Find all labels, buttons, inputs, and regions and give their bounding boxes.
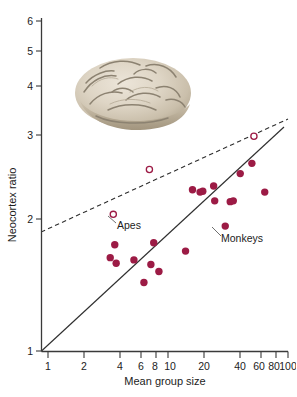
y-tick-label-6: 6 xyxy=(27,15,33,27)
data-point xyxy=(110,211,116,217)
scatter-plot: 6 5 4 3 2 1 Neocortex ratio 1 2 4 6 xyxy=(0,0,296,397)
x-tick-label-80: 80 xyxy=(268,360,280,372)
monkeys-label: Monkeys xyxy=(221,232,263,244)
data-point xyxy=(107,254,114,261)
data-point xyxy=(222,222,229,229)
y-axis: 6 5 4 3 2 1 Neocortex ratio xyxy=(6,15,42,357)
x-tick-label-10: 10 xyxy=(164,360,176,372)
x-axis-title: Mean group size xyxy=(124,375,205,387)
y-tick-label-3: 3 xyxy=(27,129,33,141)
ape-data-points xyxy=(110,133,257,217)
y-tick-label-2: 2 xyxy=(27,213,33,225)
annotation-apes: Apes xyxy=(108,216,141,231)
x-tick-label-4: 4 xyxy=(117,360,123,372)
apes-label: Apes xyxy=(117,219,141,231)
data-point xyxy=(237,170,244,177)
brain-illustration xyxy=(75,58,191,130)
y-axis-title: Neocortex ratio xyxy=(6,168,18,243)
x-axis: 1 2 4 6 8 10 20 40 60 80 100 Mean group … xyxy=(42,352,297,388)
x-tick-label-2: 2 xyxy=(81,360,87,372)
x-tick-label-8: 8 xyxy=(152,360,158,372)
figure-container: 6 5 4 3 2 1 Neocortex ratio 1 2 4 6 xyxy=(0,0,296,397)
y-tick-label-1: 1 xyxy=(27,345,33,357)
annotation-monkeys: Monkeys xyxy=(212,227,263,244)
data-point xyxy=(147,261,154,268)
data-point xyxy=(248,160,255,167)
data-point xyxy=(199,188,206,195)
x-tick-label-100: 100 xyxy=(279,360,296,372)
data-point xyxy=(150,239,157,246)
data-point xyxy=(146,166,152,172)
data-point xyxy=(155,268,162,275)
y-tick-label-5: 5 xyxy=(27,45,33,57)
data-point xyxy=(140,279,147,286)
data-point xyxy=(112,260,119,267)
data-point xyxy=(111,241,118,248)
data-point xyxy=(189,186,196,193)
data-point xyxy=(182,247,189,254)
x-tick-label-1: 1 xyxy=(45,360,51,372)
data-point xyxy=(211,197,218,204)
x-tick-label-40: 40 xyxy=(234,360,246,372)
x-tick-label-60: 60 xyxy=(253,360,265,372)
y-tick-label-4: 4 xyxy=(27,80,33,92)
data-point xyxy=(251,133,257,139)
x-tick-label-6: 6 xyxy=(138,360,144,372)
data-point xyxy=(230,197,237,204)
data-point xyxy=(261,188,268,195)
data-point xyxy=(210,182,217,189)
x-tick-label-20: 20 xyxy=(198,360,210,372)
data-point xyxy=(130,256,137,263)
